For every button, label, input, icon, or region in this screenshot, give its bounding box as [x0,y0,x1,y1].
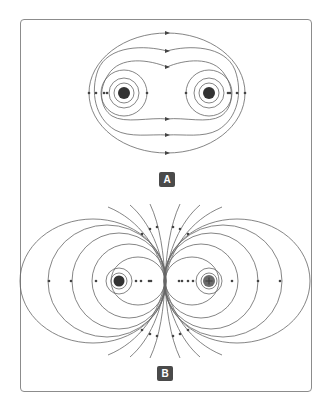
panel-b-label: B [157,366,173,381]
field-lines-figure [0,0,326,403]
panel-b-field-lines [20,204,310,358]
panel-a-charges [118,87,215,99]
panel-a-arrows [88,31,247,155]
panel-b-arrows [48,226,282,338]
panel-a-label: A [159,172,175,187]
charge-a-left [118,87,130,99]
charge-b-left [114,276,125,287]
charge-a-right [203,87,215,99]
